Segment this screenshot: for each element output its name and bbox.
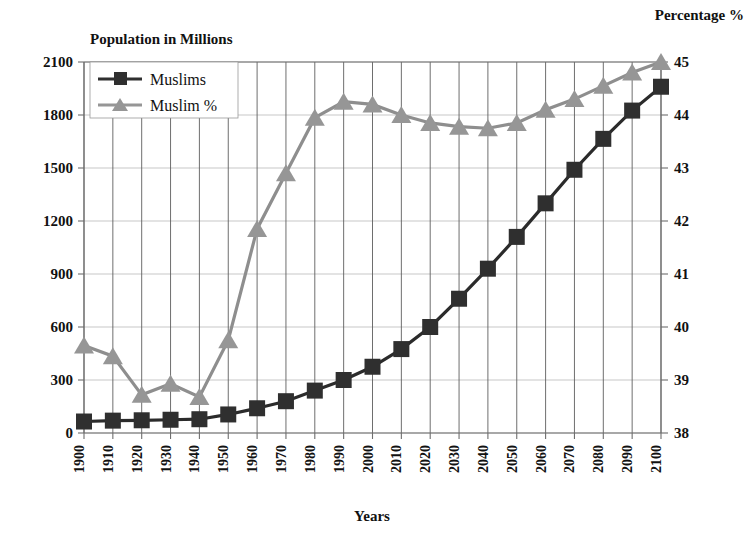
left-tick-label: 1200 — [43, 213, 73, 229]
data-point-marker-square — [365, 359, 381, 375]
left-tick-label: 300 — [51, 372, 74, 388]
legend-marker-square — [114, 72, 127, 85]
chart-container: Population in Millions Percentage % 0300… — [0, 0, 754, 537]
x-tick-label: 2010 — [389, 445, 404, 473]
x-tick-label: 2040 — [476, 445, 491, 473]
data-point-marker-square — [76, 414, 92, 430]
legend-label: Muslims — [150, 71, 206, 88]
left-tick-label: 1500 — [43, 160, 73, 176]
x-tick-label: 2000 — [361, 445, 376, 473]
right-tick-label: 44 — [674, 107, 690, 123]
data-point-marker-square — [307, 383, 323, 399]
right-tick-label: 39 — [674, 372, 689, 388]
x-tick-label: 1910 — [101, 445, 116, 473]
data-point-marker-square — [509, 229, 525, 245]
x-tick-label: 1940 — [187, 445, 202, 473]
x-tick-label: 2060 — [534, 445, 549, 473]
left-tick-label: 2100 — [43, 54, 73, 70]
x-tick-label: 2090 — [620, 445, 635, 473]
x-tick-label: 2020 — [418, 445, 433, 473]
x-tick-label: 2070 — [562, 445, 577, 473]
x-tick-label: 1960 — [245, 445, 260, 473]
right-tick-label: 38 — [674, 425, 689, 441]
data-point-marker-square — [393, 341, 409, 357]
data-point-marker-square — [624, 103, 640, 119]
data-point-marker-square — [249, 400, 265, 416]
right-tick-label: 40 — [674, 319, 689, 335]
data-point-marker-square — [191, 411, 207, 427]
right-tick-label: 45 — [674, 54, 689, 70]
data-point-marker-square — [653, 79, 669, 95]
x-tick-label: 2100 — [649, 445, 664, 473]
x-tick-label: 1930 — [159, 445, 174, 473]
x-tick-label: 2080 — [591, 445, 606, 473]
x-tick-label: 1970 — [274, 445, 289, 473]
right-axis-title: Percentage % — [655, 7, 744, 23]
data-point-marker-square — [134, 412, 150, 428]
right-tick-label: 43 — [674, 160, 689, 176]
right-tick-label: 42 — [674, 213, 689, 229]
left-tick-label: 900 — [51, 266, 74, 282]
x-tick-label: 1950 — [216, 445, 231, 473]
right-tick-label: 41 — [674, 266, 689, 282]
left-tick-label: 0 — [66, 425, 74, 441]
data-point-marker-square — [278, 393, 294, 409]
data-point-marker-square — [595, 131, 611, 147]
data-point-marker-square — [163, 412, 179, 428]
x-tick-label: 1900 — [72, 445, 87, 473]
chart-legend: MuslimsMuslim % — [90, 62, 238, 118]
x-axis-title: Years — [354, 508, 390, 524]
data-point-marker-square — [451, 291, 467, 307]
left-axis-title: Population in Millions — [90, 31, 233, 47]
data-point-marker-square — [566, 162, 582, 178]
data-point-marker-square — [422, 319, 438, 335]
x-tick-label: 1980 — [303, 445, 318, 473]
left-tick-label: 600 — [51, 319, 74, 335]
left-tick-label: 1800 — [43, 107, 73, 123]
legend-label: Muslim % — [150, 97, 217, 114]
data-point-marker-square — [220, 406, 236, 422]
data-point-marker-square — [480, 261, 496, 277]
population-percentage-line-chart: Population in Millions Percentage % 0300… — [0, 0, 754, 537]
data-point-marker-square — [336, 372, 352, 388]
data-point-marker-square — [105, 413, 121, 429]
x-tick-label: 1990 — [332, 445, 347, 473]
data-point-marker-square — [538, 195, 554, 211]
x-tick-label: 2050 — [505, 445, 520, 473]
x-tick-label: 1920 — [130, 445, 145, 473]
x-tick-label: 2030 — [447, 445, 462, 473]
